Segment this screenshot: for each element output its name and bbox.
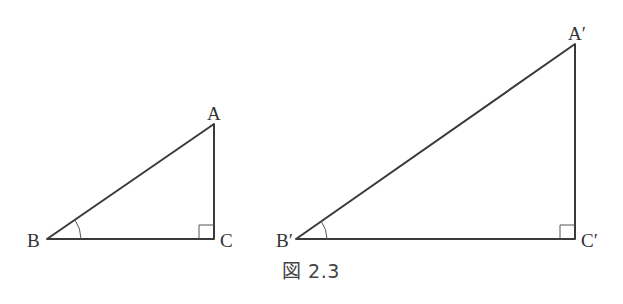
vertex-label-c: C: [220, 230, 233, 251]
vertex-label-b-prime: B′: [276, 230, 293, 251]
vertex-label-a: A: [207, 103, 221, 124]
vertex-label-b: B: [27, 230, 40, 251]
vertex-label-a-prime: A′: [568, 23, 586, 44]
figure-caption: 図 2.3: [282, 256, 340, 283]
angle-arc-b-prime: [321, 221, 327, 239]
triangle-apbpcp-edges: [296, 44, 575, 239]
triangle-abc-edges: [47, 124, 214, 239]
right-angle-mark-c: [199, 225, 214, 239]
angle-arc-b: [75, 220, 81, 239]
triangle-a-prime-b-prime-c-prime: A′ B′ C′: [276, 23, 598, 251]
right-angle-mark-c-prime: [560, 225, 575, 239]
vertex-label-c-prime: C′: [581, 230, 598, 251]
triangle-abc: A B C: [27, 103, 233, 251]
